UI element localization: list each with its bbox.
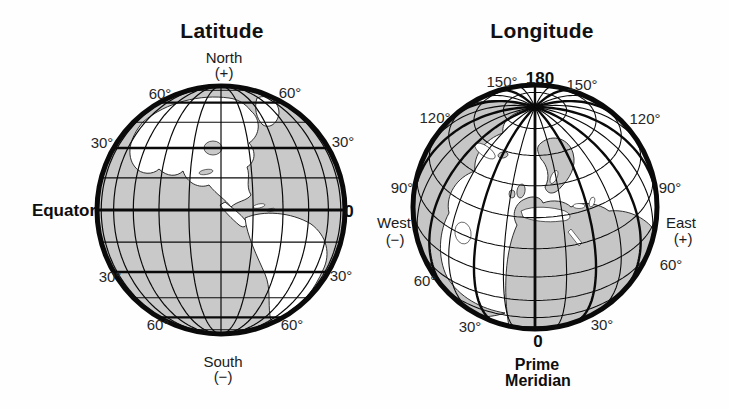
- lat-30s-left-label: 30°: [99, 269, 122, 284]
- lon-150-left-label: 150°: [486, 74, 517, 89]
- lon-30-right-label: 30°: [591, 317, 614, 332]
- prime-meridian-label-2: Meridian: [505, 373, 571, 389]
- latitude-title: Latitude: [180, 20, 263, 41]
- lon-150-right-label: 150°: [566, 77, 597, 92]
- lon-60-right-label: 60°: [660, 257, 683, 272]
- lat-60n-right-label: 60°: [279, 85, 302, 100]
- lon-90-left-label: 90°: [391, 180, 414, 195]
- prime-meridian-label-1: Prime: [515, 357, 559, 373]
- north-pole-label: North: [206, 50, 243, 65]
- south-sign-label: (−): [214, 369, 233, 384]
- globes-illustration: [0, 0, 729, 409]
- lat-60s-left-label: 60°: [147, 317, 170, 332]
- lat-60n-left-label: 60°: [149, 86, 172, 101]
- equator-zero-label: 0: [344, 203, 353, 220]
- lon-30-left-label: 30°: [459, 319, 482, 334]
- lon-90-right-label: 90°: [659, 180, 682, 195]
- lat-30s-right-label: 30°: [330, 268, 353, 283]
- lon-60-left-label: 60°: [414, 273, 437, 288]
- east-label: East: [666, 215, 696, 230]
- lat-60s-right-label: 60°: [281, 317, 304, 332]
- lat-30n-left-label: 30°: [91, 135, 114, 150]
- lon-120-right-label: 120°: [629, 111, 660, 126]
- lon-180-label: 180: [526, 70, 554, 87]
- lat-30n-right-label: 30°: [332, 134, 355, 149]
- prime-meridian-zero-label: 0: [533, 333, 542, 350]
- west-sign-label: (−): [386, 232, 405, 247]
- equator-label: Equator: [32, 202, 96, 219]
- east-sign-label: (+): [674, 231, 693, 246]
- north-sign-label: (+): [215, 65, 234, 80]
- longitude-title: Longitude: [490, 20, 593, 41]
- lon-120-left-label: 120°: [419, 110, 450, 125]
- west-label: West: [377, 215, 411, 230]
- south-pole-label: South: [203, 354, 242, 369]
